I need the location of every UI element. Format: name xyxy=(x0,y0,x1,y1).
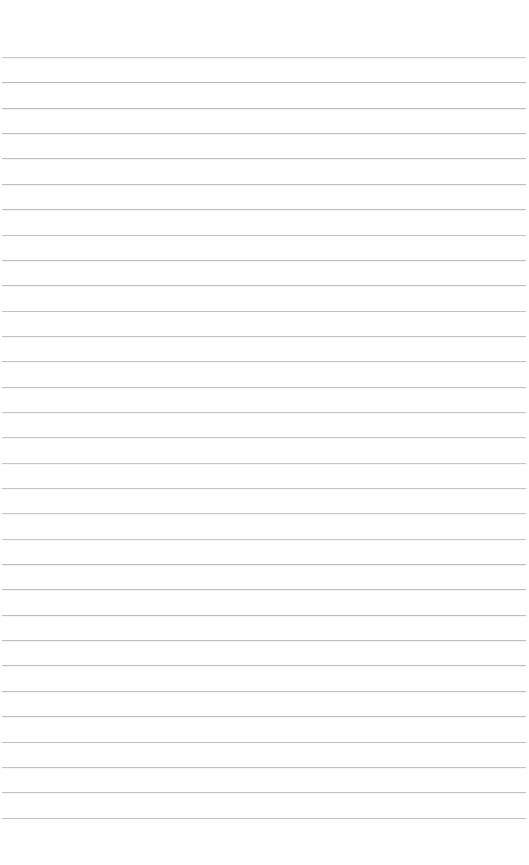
writing-row xyxy=(0,716,529,741)
ruled-line xyxy=(2,336,526,337)
writing-row xyxy=(0,412,529,437)
ruled-line xyxy=(2,108,526,109)
writing-row xyxy=(0,767,529,792)
writing-row xyxy=(0,311,529,336)
ruled-line xyxy=(2,82,526,83)
ruled-line xyxy=(2,640,526,641)
ruled-line xyxy=(2,589,526,590)
writing-row xyxy=(0,361,529,386)
writing-row xyxy=(0,108,529,133)
ruled-line xyxy=(2,742,526,743)
ruled-line xyxy=(2,285,526,286)
writing-row xyxy=(0,513,529,538)
ruled-line xyxy=(2,361,526,362)
writing-row xyxy=(0,742,529,767)
writing-row xyxy=(0,133,529,158)
writing-row xyxy=(0,260,529,285)
writing-row xyxy=(0,82,529,107)
ruled-line xyxy=(2,412,526,413)
ruled-line xyxy=(2,513,526,514)
ruled-line xyxy=(2,57,526,58)
writing-row xyxy=(0,285,529,310)
writing-row xyxy=(0,158,529,183)
writing-row xyxy=(0,387,529,412)
ruled-line-layer xyxy=(0,0,529,865)
ruled-line xyxy=(2,564,526,565)
writing-row xyxy=(0,184,529,209)
ruled-line xyxy=(2,665,526,666)
ruled-line xyxy=(2,235,526,236)
ruled-line xyxy=(2,488,526,489)
ruled-line xyxy=(2,133,526,134)
ruled-line xyxy=(2,767,526,768)
writing-row xyxy=(0,235,529,260)
writing-row xyxy=(0,437,529,462)
ruled-line xyxy=(2,691,526,692)
writing-row xyxy=(0,463,529,488)
ruled-line xyxy=(2,311,526,312)
ruled-line xyxy=(2,792,526,793)
ruled-line xyxy=(2,716,526,717)
writing-row xyxy=(0,57,529,82)
writing-row xyxy=(0,691,529,716)
writing-row xyxy=(0,792,529,817)
bottom-margin-band xyxy=(0,818,529,865)
ruled-line xyxy=(2,539,526,540)
writing-row xyxy=(0,564,529,589)
writing-row xyxy=(0,488,529,513)
writing-row xyxy=(0,665,529,690)
ruled-line xyxy=(2,615,526,616)
ruled-line xyxy=(2,158,526,159)
writing-row xyxy=(0,336,529,361)
writing-row xyxy=(0,209,529,234)
ruled-line xyxy=(2,209,526,210)
ruled-line xyxy=(2,437,526,438)
writing-row xyxy=(0,539,529,564)
writing-row xyxy=(0,640,529,665)
ruled-line xyxy=(2,463,526,464)
writing-row xyxy=(0,615,529,640)
ruled-paper-page xyxy=(0,0,529,865)
ruled-line xyxy=(2,260,526,261)
writing-row xyxy=(0,589,529,614)
ruled-line xyxy=(2,184,526,185)
ruled-line xyxy=(2,387,526,388)
